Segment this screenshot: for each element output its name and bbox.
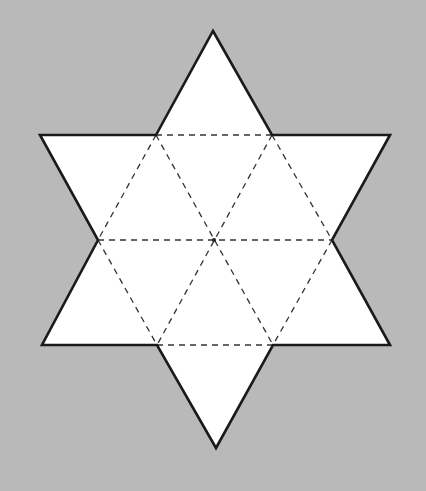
center-dot <box>212 238 216 242</box>
star-net-diagram <box>0 0 426 491</box>
